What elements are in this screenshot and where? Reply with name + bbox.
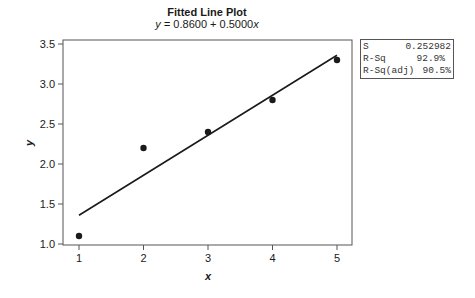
stats-value: 0.252982 — [405, 41, 451, 53]
y-tick-label: 1.0 — [40, 238, 55, 250]
stats-row-rsq: R-Sq 92.9% — [363, 53, 451, 65]
data-point — [140, 145, 146, 151]
data-point — [205, 129, 211, 135]
stats-row-rsq-adj: R-Sq(adj) 90.5% — [363, 65, 451, 77]
y-axis-label: y — [23, 139, 35, 147]
data-point — [334, 57, 340, 63]
x-axis-ticks: 12345 — [76, 245, 340, 264]
x-tick-label: 5 — [334, 252, 340, 264]
x-tick-label: 1 — [76, 252, 82, 264]
stats-value: 90.5% — [422, 65, 451, 77]
y-tick-label: 1.5 — [40, 198, 55, 210]
x-tick-label: 3 — [205, 252, 211, 264]
y-tick-label: 2.0 — [40, 158, 55, 170]
stats-label: R-Sq — [363, 53, 386, 65]
stats-value: 92.9% — [416, 53, 451, 65]
data-points — [76, 57, 340, 239]
y-tick-label: 2.5 — [40, 118, 55, 130]
stats-label: S — [363, 41, 369, 53]
x-tick-label: 4 — [269, 252, 275, 264]
stats-row-s: S 0.252982 — [363, 41, 451, 53]
x-tick-label: 2 — [140, 252, 146, 264]
chart-title: Fitted Line Plot — [167, 6, 247, 18]
data-point — [269, 97, 275, 103]
y-axis-ticks: 1.01.52.02.53.03.5 — [40, 38, 63, 250]
plot-frame — [63, 40, 352, 245]
x-axis-label: x — [204, 270, 212, 282]
stats-label: R-Sq(adj) — [363, 65, 414, 77]
subtitle-prefix: y = — [154, 18, 173, 30]
data-point — [76, 233, 82, 239]
chart-subtitle: y = 0.8600 + 0.5000x — [154, 18, 259, 30]
y-tick-label: 3.5 — [40, 38, 55, 50]
regression-stats-box: S 0.252982 R-Sq 92.9% R-Sq(adj) 90.5% — [360, 39, 454, 79]
y-tick-label: 3.0 — [40, 78, 55, 90]
subtitle-equation: 0.8600 + 0.5000 — [173, 18, 253, 30]
subtitle-suffix: x — [252, 18, 259, 30]
